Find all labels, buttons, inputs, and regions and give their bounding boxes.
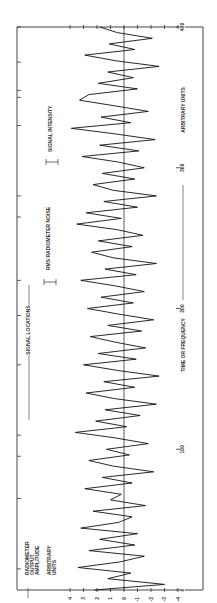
axis-ticks: 43210-1-2-3-40100200300400 bbox=[17, 23, 185, 602]
y-tick-label: -3 bbox=[161, 597, 167, 602]
radiometer-trace bbox=[71, 27, 164, 590]
y-tick-label: -4 bbox=[175, 597, 181, 602]
rotated-line-chart: 43210-1-2-3-40100200300400 TIME OR FREQU… bbox=[0, 0, 217, 603]
x-axis-title: TIME OR FREQUENCY bbox=[180, 318, 186, 372]
signal-locations-label: SIGNAL LOCATIONS bbox=[25, 305, 31, 355]
y-tick-label: -2 bbox=[148, 597, 154, 602]
y-tick-label: 1 bbox=[107, 597, 113, 600]
y-tick-label: 4 bbox=[67, 597, 73, 600]
y-units-2: UNITS bbox=[51, 559, 57, 575]
y-tick-label: 2 bbox=[94, 597, 100, 600]
signal-intensity-label: SIGNAL INTENSITY bbox=[47, 105, 53, 152]
plot-frame bbox=[17, 27, 203, 590]
data-trace bbox=[71, 27, 164, 590]
y-tick-label: 3 bbox=[80, 597, 86, 600]
x-tick-label: 200 bbox=[179, 304, 185, 313]
y-tick-label: 0 bbox=[121, 597, 127, 600]
x-axis-units: ARBITRARY UNITS bbox=[180, 87, 186, 133]
x-tick-label: 300 bbox=[179, 163, 185, 172]
annotations: TIME OR FREQUENCYARBITRARY UNITSRADIOMET… bbox=[24, 87, 186, 598]
x-tick-label: 100 bbox=[179, 445, 185, 454]
rms-noise-label: RMS RADIOMETER NOISE bbox=[45, 206, 51, 270]
x-tick-label: 400 bbox=[179, 23, 185, 32]
y-axis-title-3: AMPLITUDE bbox=[34, 545, 40, 575]
y-tick-label: -1 bbox=[134, 597, 140, 602]
x-tick-label: 0 bbox=[179, 588, 185, 591]
